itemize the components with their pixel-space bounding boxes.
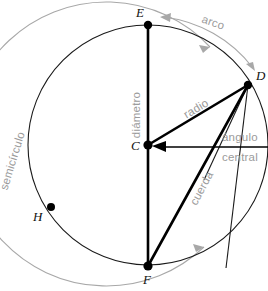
semicircle-guide-arc <box>0 2 210 286</box>
semicircle-arrow-head-bottom <box>193 244 204 252</box>
geometry-canvas: E D C H F diámetro radio cuerda arco sem… <box>0 0 268 291</box>
point-label-H: H <box>32 209 43 224</box>
point-E <box>144 21 152 29</box>
circle-parts-diagram: E D C H F diámetro radio cuerda arco sem… <box>0 0 268 291</box>
semicircle-arrow-head-top <box>199 45 210 53</box>
point-C <box>143 140 152 149</box>
point-label-E: E <box>135 5 144 20</box>
point-label-C: C <box>131 138 140 153</box>
point-label-F: F <box>142 272 152 287</box>
point-H <box>47 203 55 211</box>
point-F <box>143 261 152 270</box>
arco-arrow-head-right <box>246 62 255 71</box>
label-semicirculo: semicírculo <box>0 130 27 191</box>
label-central: central <box>222 151 258 163</box>
label-diametro: diámetro <box>130 92 142 138</box>
label-angulo: ángulo <box>222 131 258 143</box>
point-D <box>244 81 252 89</box>
point-label-D: D <box>255 68 266 83</box>
